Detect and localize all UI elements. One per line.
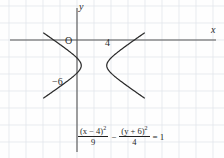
- fraction-first-denominator: 9: [89, 138, 97, 147]
- minus-operator: −: [110, 132, 117, 142]
- fraction-second-denominator: 4: [130, 138, 138, 147]
- x-axis-label: x: [211, 25, 215, 35]
- origin-label: O: [65, 36, 72, 46]
- numerator-first-exponent: 2: [103, 125, 106, 131]
- fraction-second-numerator: (y + 6)2: [119, 127, 149, 136]
- hyperbola-figure: y x O 4 −6 (x − 4)2 9 − (y + 6)2 4 = 1: [0, 0, 224, 158]
- y-axis-label: y: [79, 2, 83, 12]
- fraction-first-numerator: (x − 4)2: [78, 127, 108, 136]
- fraction-second: (y + 6)2 4: [119, 127, 149, 147]
- y-tick-label-minus-6: −6: [52, 77, 63, 87]
- fraction-first: (x − 4)2 9: [78, 127, 108, 147]
- hyperbola-right-branch: [107, 33, 145, 98]
- x-tick-label-4: 4: [105, 38, 110, 48]
- equation-caption: (x − 4)2 9 − (y + 6)2 4 = 1: [78, 127, 165, 147]
- numerator-second-exponent: 2: [145, 125, 148, 131]
- numerator-first-base: (x − 4): [80, 126, 103, 136]
- hyperbola-left-branch: [44, 33, 82, 98]
- numerator-second-base: (y + 6): [121, 126, 144, 136]
- equals-one: = 1: [152, 132, 166, 142]
